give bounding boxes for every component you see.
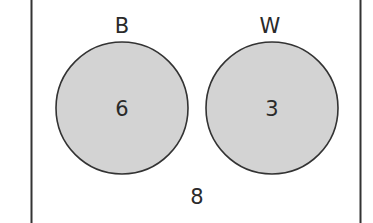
set-b-label: B xyxy=(115,14,129,38)
set-w-label: W xyxy=(260,14,281,38)
set-b-count: 6 xyxy=(115,97,128,121)
venn-diagram: B W 6 3 8 xyxy=(0,0,373,223)
outside-count: 8 xyxy=(190,185,203,209)
set-w-count: 3 xyxy=(265,97,278,121)
